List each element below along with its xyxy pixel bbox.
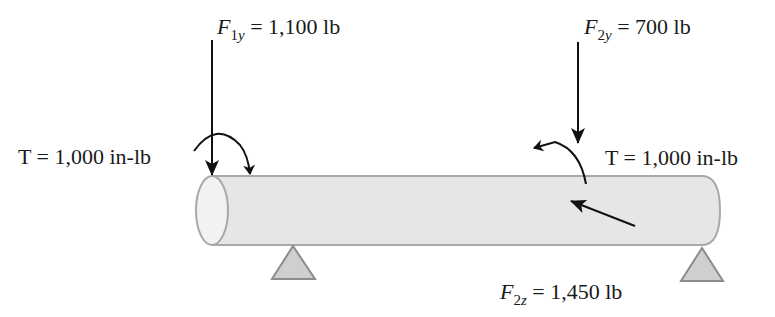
- shaft: [196, 176, 720, 245]
- f2z-label: F2z = 1,450 lb: [500, 281, 622, 303]
- f2z-sub-var: z: [521, 292, 527, 308]
- f1y-subscript: 1y: [230, 27, 244, 43]
- f1y-sub-var: y: [238, 27, 245, 43]
- f1y-label: F1y = 1,100 lb: [217, 16, 340, 38]
- f1y-sub-num: 1: [230, 27, 238, 43]
- f2y-value: = 700 lb: [612, 14, 691, 39]
- f2y-label: F2y = 700 lb: [584, 16, 691, 38]
- shaft-left-end-face: [196, 176, 228, 245]
- f2y-sub-num: 2: [597, 27, 605, 43]
- shaft-body: [212, 176, 720, 245]
- f2z-value: = 1,450 lb: [527, 279, 623, 304]
- f2z-symbol: F: [500, 279, 513, 304]
- f2y-subscript: 2y: [597, 27, 611, 43]
- left-support-triangle: [272, 246, 315, 279]
- right-torque-label: T = 1,000 in-lb: [605, 147, 738, 169]
- f1y-symbol: F: [217, 14, 230, 39]
- right-support-triangle: [681, 248, 723, 281]
- f2y-symbol: F: [584, 14, 597, 39]
- f1y-value: = 1,100 lb: [245, 14, 341, 39]
- f2z-subscript: 2z: [513, 292, 526, 308]
- f2z-sub-num: 2: [513, 292, 521, 308]
- f2y-sub-var: y: [605, 27, 612, 43]
- left-torque-label: T = 1,000 in-lb: [18, 146, 151, 168]
- left-torque-arc: [194, 134, 250, 174]
